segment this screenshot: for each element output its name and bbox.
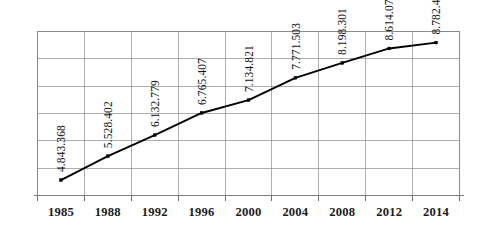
data-point-marker [294, 77, 297, 80]
x-axis-category-label: 2008 [329, 205, 355, 219]
x-axis-category-label: 2004 [282, 205, 308, 219]
x-axis-category-label: 1988 [95, 205, 121, 219]
chart-background [0, 0, 479, 233]
line-chart-figure: 4.843.3685.528.4026.132.7796.765.4077.13… [0, 0, 479, 233]
data-value-label: 8.614.071 [383, 0, 395, 40]
x-axis-category-label: 2012 [376, 205, 402, 219]
x-axis-category-label: 1985 [48, 205, 74, 219]
data-point-marker [341, 62, 344, 65]
data-point-marker [247, 99, 250, 102]
x-axis-category-label: 2000 [236, 205, 262, 219]
data-point-marker [200, 112, 203, 115]
data-point-marker [60, 179, 63, 182]
x-axis-category-label: 2014 [423, 205, 449, 219]
data-point-marker [388, 47, 391, 50]
data-point-marker [107, 155, 110, 158]
data-value-label: 6.132.779 [149, 80, 161, 127]
data-point-marker [435, 41, 438, 44]
x-axis-category-label: 1992 [142, 205, 168, 219]
data-value-label: 6.765.407 [196, 58, 208, 105]
data-value-label: 7.134.821 [243, 45, 255, 92]
data-point-marker [153, 134, 156, 137]
data-value-label: 5.528.402 [102, 101, 114, 148]
x-axis-category-label: 1996 [189, 205, 215, 219]
data-value-label: 7.771.503 [290, 23, 302, 70]
data-value-label: 8.198.301 [336, 8, 348, 55]
data-value-label: 8.782.406 [430, 0, 442, 35]
data-value-label: 4.843.368 [55, 125, 67, 172]
x-axis-category-labels: 198519881992199620002004200820122014 [48, 205, 450, 219]
chart-canvas: 4.843.3685.528.4026.132.7796.765.4077.13… [0, 0, 479, 233]
